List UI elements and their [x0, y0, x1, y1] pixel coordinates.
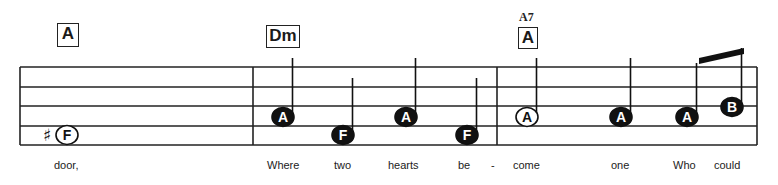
beam — [699, 48, 744, 64]
note-letter: A — [278, 109, 288, 125]
note-a: A — [516, 58, 538, 127]
note-letter: A — [616, 109, 626, 125]
note-letter: F — [463, 127, 472, 143]
lyric-syllable: come — [513, 159, 540, 171]
lyric-syllable: could — [714, 159, 740, 171]
note-a: A — [676, 63, 698, 127]
chord-box-a: A — [57, 23, 79, 47]
music-staff: F♯AFAFAAAB — [0, 0, 778, 185]
chord-box-dm: Dm — [266, 25, 300, 48]
note-letter: B — [727, 99, 737, 115]
lyric-syllable: Who — [673, 159, 696, 171]
note-letter: F — [63, 127, 72, 143]
lyric-syllable: Where — [267, 159, 299, 171]
lyric-syllable: two — [334, 159, 351, 171]
lyric-syllable: be — [458, 159, 470, 171]
chord-box-a: A — [518, 27, 538, 49]
note-letter: A — [401, 109, 411, 125]
note-a: A — [272, 58, 294, 127]
eighth-note-beam — [699, 48, 744, 64]
note-f: F♯ — [43, 125, 78, 145]
chord-alt-label: A7 — [519, 10, 534, 25]
note-a: A — [610, 58, 632, 127]
lyric-syllable: one — [611, 159, 629, 171]
sharp-icon: ♯ — [43, 125, 51, 145]
lyric-syllable: hearts — [388, 159, 419, 171]
note-letter: F — [339, 127, 348, 143]
note-letter: A — [522, 109, 532, 125]
note-f: F — [332, 78, 354, 145]
lyric-syllable: - — [491, 159, 495, 171]
note-a: A — [395, 58, 417, 127]
notes: F♯AFAFAAAB — [43, 48, 743, 145]
note-letter: A — [682, 109, 692, 125]
note-f: F — [456, 78, 478, 145]
lyric-syllable: door, — [54, 159, 78, 171]
staff-lines — [20, 67, 757, 145]
